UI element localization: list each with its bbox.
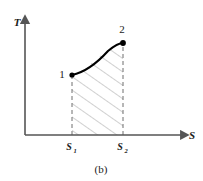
x-tick-s1-base: S	[66, 141, 72, 152]
state-2-label: 2	[119, 23, 125, 35]
state-1-label: 1	[59, 68, 65, 80]
figure-caption: (b)	[95, 163, 108, 176]
state-point-1	[69, 72, 74, 77]
state-point-2	[120, 40, 126, 46]
x-tick-s2-base: S	[117, 141, 123, 152]
x-tick-s1-subscript: 1	[73, 147, 76, 154]
ts-diagram: T S 1 2 S 1 S 2 (b)	[0, 0, 203, 181]
figure-container: T S 1 2 S 1 S 2 (b)	[0, 0, 203, 181]
x-axis-label: S	[189, 129, 195, 141]
